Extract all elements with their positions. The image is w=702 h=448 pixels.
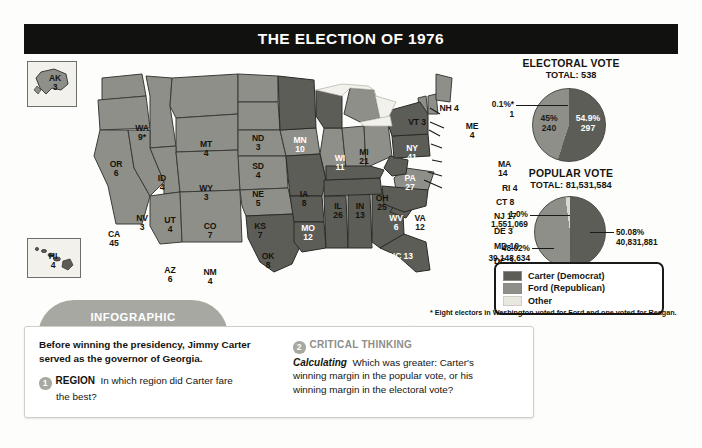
electoral-other-callout: 0.1%*1 [468, 100, 514, 119]
state-label-OH: OH 25 [368, 194, 396, 213]
popular-carter-callout: 50.08%40,831,881 [616, 228, 680, 247]
legend-swatch-other [503, 296, 522, 307]
state-label-OR: OR 6 [102, 160, 130, 179]
state-label-PA: PA 27 [396, 174, 424, 193]
alaska-inset: AK 3 [27, 61, 77, 107]
state-label-MT: MT 4 [192, 140, 220, 159]
question-1-text2: the best? [56, 391, 97, 402]
state-label-NC: NC 13 [380, 252, 422, 261]
state-label-MO: MO 12 [294, 224, 322, 243]
state-label-TX: TX 26 [260, 294, 288, 313]
state-label-MI: MI 21 [350, 148, 378, 167]
state-label-SC: SC 8 [392, 270, 420, 289]
state-label-VT: VT 3 [400, 118, 434, 127]
infographic-intro: Before winning the presidency, Jimmy Car… [39, 338, 275, 365]
state-label-CA: CA 45 [100, 230, 128, 249]
hawaii-inset: HI 4 [27, 238, 81, 278]
state-label-SD: SD 4 [244, 162, 272, 181]
state-label-CO: CO 7 [196, 222, 224, 241]
popular-carter-leader-line [590, 232, 614, 233]
state-label-NM: NM 4 [196, 268, 224, 287]
state-label-NH: NH 4 [432, 104, 466, 113]
state-label-ND: ND 3 [244, 134, 272, 153]
state-label-HI: HI 4 [42, 252, 64, 271]
question-1-text: In which region did Carter fare [100, 375, 232, 386]
question-2-text3: winning margin in the electoral vote? [293, 384, 453, 395]
question-2-heading: CRITICAL THINKING [310, 339, 413, 350]
infographic-page: THE ELECTION OF 1976 [0, 0, 702, 448]
state-label-ID: ID 4 [148, 174, 176, 193]
popular-other-callout: 1.0%1,551,069 [466, 210, 528, 229]
state-label-UT: UT 4 [156, 216, 184, 235]
question-2-text: Which was greater: Carter's [352, 357, 474, 368]
state-label-NE: NE 5 [244, 190, 272, 209]
state-label-LA: LA 10 [300, 294, 328, 313]
state-label-WA: WA 9* [128, 124, 156, 143]
question-1: 1REGION In which region did Carter fare … [39, 374, 275, 403]
question-2-number: 2 [293, 341, 306, 354]
infographic-box: Before winning the presidency, Jimmy Car… [24, 326, 534, 418]
popular-chart-title: POPULAR VOTE [464, 168, 678, 179]
legend-item-other: Other [503, 295, 655, 307]
legend-label-carter: Carter (Democrat) [528, 271, 605, 281]
electoral-map: WA 9* OR 6 CA 45 ID 4 NV 3 MT 4 WY 3 UT … [24, 56, 454, 314]
electoral-pie-wrap: 54.9%297 45%240 0.1%*1 [464, 80, 678, 164]
state-label-WY: WY 3 [192, 184, 220, 203]
electoral-other-leader-line [516, 105, 568, 106]
state-label-NY: NY 41 [398, 144, 426, 163]
state-label-IA: IA 8 [290, 190, 318, 209]
electoral-carter-slice-label: 54.9%297 [568, 113, 608, 133]
electoral-vote-chart: ELECTORAL VOTE TOTAL: 538 54.9%297 45%24… [464, 58, 678, 164]
infographic-intro-line2: served as the governor of Georgia. [39, 353, 203, 364]
infographic-left-column: Before winning the presidency, Jimmy Car… [39, 338, 275, 403]
map-footnote: * Eight electors in Washington voted for… [430, 308, 688, 317]
vote-charts: ELECTORAL VOTE TOTAL: 538 54.9%297 45%24… [464, 58, 678, 282]
legend-swatch-ford [503, 283, 522, 294]
state-label-MN: MN 10 [286, 136, 314, 155]
legend-label-ford: Ford (Republican) [528, 283, 605, 293]
infographic-right-column: 2CRITICAL THINKING Calculating Which was… [293, 338, 525, 396]
electoral-chart-title: ELECTORAL VOTE [464, 58, 678, 69]
page-title-bar: THE ELECTION OF 1976 [24, 24, 678, 54]
legend-item-carter: Carter (Democrat) [503, 270, 655, 282]
state-label-KS: KS 7 [246, 222, 274, 241]
electoral-chart-total: TOTAL: 538 [464, 70, 678, 80]
question-2-tag: Calculating [293, 357, 347, 368]
electoral-ford-slice-label: 45%240 [530, 113, 568, 133]
state-label-OK: OK 8 [254, 252, 282, 271]
legend-item-ford: Ford (Republican) [503, 283, 655, 295]
legend-swatch-carter [503, 271, 522, 282]
state-label-AR: AR 6 [298, 262, 326, 281]
popular-ford-leader-line [532, 248, 554, 249]
state-label-AK: AK 3 [44, 74, 66, 93]
state-label-AZ: AZ 6 [156, 266, 184, 285]
state-label-NV: NV 3 [128, 214, 156, 233]
question-1-tag: REGION [56, 375, 95, 386]
infographic-tab-label: INFOGRAPHIC [38, 311, 228, 323]
state-label-KY: KY 9 [346, 248, 380, 257]
question-2-heading-row: 2CRITICAL THINKING [293, 338, 525, 354]
map-legend: Carter (Democrat) Ford (Republican) Othe… [494, 262, 664, 315]
popular-other-leader-line [530, 215, 570, 216]
state-label-FL: FL 17 [402, 308, 430, 327]
question-2-body: Calculating Which was greater: Carter's … [293, 356, 525, 397]
popular-ford-callout: 48.02%39,148,634 [464, 244, 530, 263]
question-1-number: 1 [39, 377, 52, 390]
page-title: THE ELECTION OF 1976 [258, 30, 444, 48]
infographic-intro-line1: Before winning the presidency, Jimmy Car… [39, 339, 251, 350]
state-label-TN: TN 10 [346, 260, 386, 269]
legend-label-other: Other [528, 296, 552, 306]
popular-chart-total: TOTAL: 81,531,584 [464, 180, 678, 190]
state-label-VA: VA 12 [406, 214, 434, 233]
question-2-text2: winning margin in the popular vote, or h… [293, 370, 473, 381]
